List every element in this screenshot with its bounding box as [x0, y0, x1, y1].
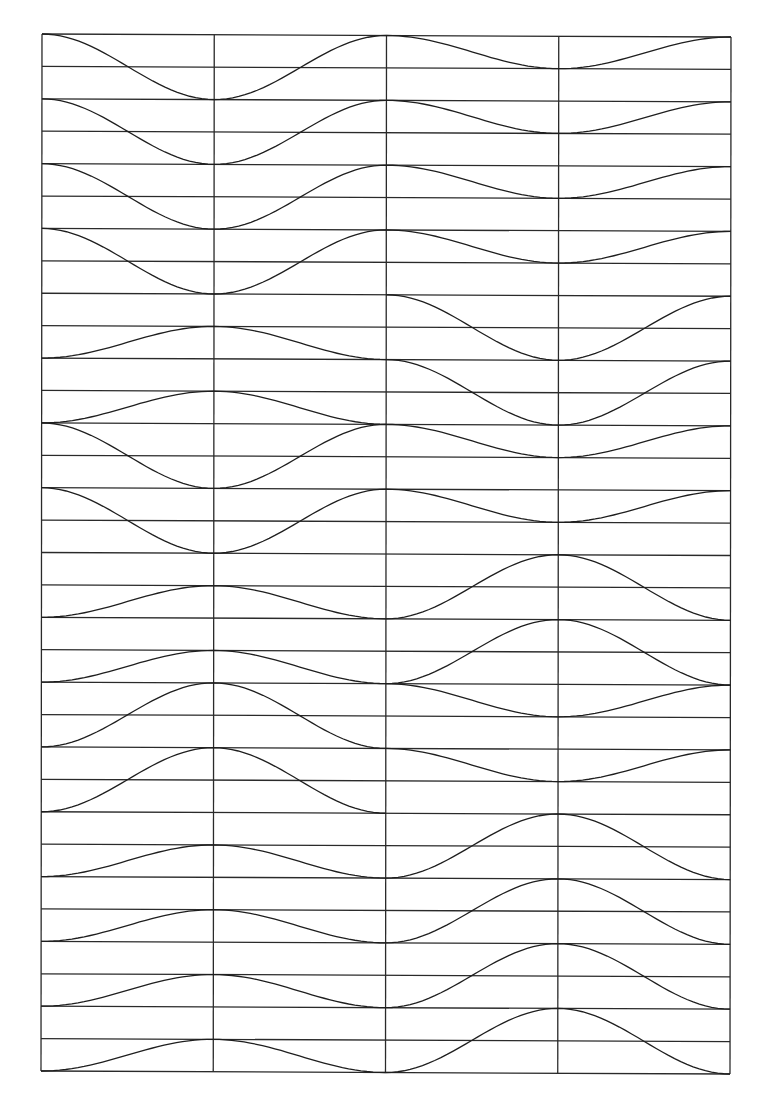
wave-grid-artwork — [0, 0, 759, 1120]
column-line — [386, 36, 387, 1073]
column-line — [41, 34, 42, 1071]
grid-lines — [41, 34, 731, 1074]
column-line — [730, 37, 731, 1074]
